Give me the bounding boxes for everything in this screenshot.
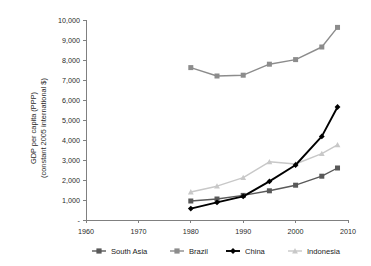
y-tick-label: 10,000 [58,16,80,25]
data-point-marker [293,183,298,188]
series-brazil [188,25,340,79]
y-tick-label: 2,000 [62,176,80,185]
x-tick-label: 2000 [288,227,304,236]
data-point-marker [241,73,246,78]
chart-legend: South AsiaBrazilChinaIndonesia [92,247,341,256]
series-container [188,25,341,212]
data-point-marker [188,65,193,70]
gdp-per-capita-line-chart: GDP per capita (PPP) (constant 2005 inte… [0,0,371,266]
data-point-marker [335,166,340,171]
x-axis: 196019701980199020002010 [78,220,356,236]
data-point-marker [215,74,220,79]
data-point-marker [267,62,272,67]
legend-item-south-asia[interactable]: South Asia [92,247,148,256]
y-tick-label: 4,000 [62,136,80,145]
data-point-marker [293,57,298,62]
y-tick-label: 6,000 [62,96,80,105]
data-point-marker [319,151,325,156]
y-axis-title-line2: (constant 2005 international $) [39,78,48,178]
chart-canvas: GDP per capita (PPP) (constant 2005 inte… [0,0,371,266]
data-point-marker [96,248,101,253]
y-tick-label: 3,000 [62,156,80,165]
y-tick-label: 5,000 [62,116,80,125]
data-point-marker [240,175,246,180]
legend-item-china[interactable]: China [226,247,266,256]
data-point-marker [188,206,194,212]
legend-label: Indonesia [307,247,341,256]
data-point-marker [335,25,340,30]
data-point-marker [174,248,179,253]
y-tick-label: 1,000 [62,196,80,205]
x-tick-label: 1980 [183,227,199,236]
legend-item-indonesia[interactable]: Indonesia [288,247,341,256]
y-axis: -1,0002,0003,0004,0005,0006,0007,0008,00… [58,16,86,225]
y-tick-label: 7,000 [62,76,80,85]
y-axis-title-line1: GDP per capita (PPP) [29,92,38,164]
series-china [188,104,341,211]
y-tick-label: 9,000 [62,36,80,45]
data-point-marker [230,248,236,254]
data-point-marker [335,142,341,147]
x-tick-label: 1960 [78,227,94,236]
legend-item-brazil[interactable]: Brazil [170,247,208,256]
y-tick-label: 8,000 [62,56,80,65]
data-point-marker [267,188,272,193]
legend-label: Brazil [189,247,208,256]
data-point-marker [319,174,324,179]
data-point-marker [188,199,193,204]
x-tick-label: 1990 [235,227,251,236]
series-indonesia [188,142,341,195]
x-tick-label: 1970 [130,227,146,236]
y-tick-label: - [78,216,81,225]
x-tick-label: 2010 [340,227,356,236]
legend-label: South Asia [111,247,148,256]
data-point-marker [319,45,324,50]
legend-label: China [245,247,266,256]
y-axis-title: GDP per capita (PPP) (constant 2005 inte… [29,78,48,178]
